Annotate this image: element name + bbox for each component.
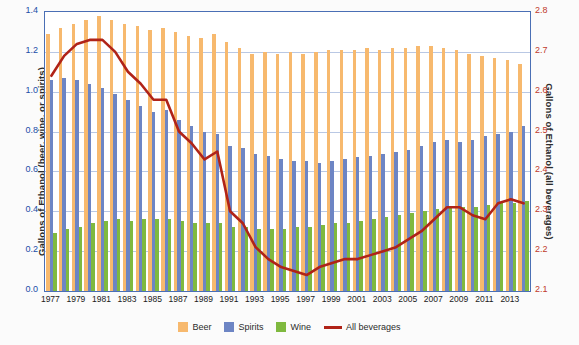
all-beverages-line	[45, 12, 532, 293]
legend-item[interactable]: Wine	[276, 322, 311, 332]
y-axis-right-tick-label: 2.4	[535, 164, 571, 174]
legend-label: Spirits	[238, 322, 263, 332]
legend-item[interactable]: All beverages	[324, 322, 401, 332]
y-axis-right-tick-label: 2.6	[535, 85, 571, 95]
y-axis-left-tick-label: 0.4	[2, 204, 38, 214]
y-axis-left-tick-label: 0.2	[2, 244, 38, 254]
y-axis-right-tick-label: 2.7	[535, 45, 571, 55]
y-axis-left-tick-label: 0.8	[2, 125, 38, 135]
y-axis-right-tick-label: 2.2	[535, 244, 571, 254]
legend-item[interactable]: Beer	[178, 322, 211, 332]
legend-label: Beer	[192, 322, 211, 332]
chart-container: Gallons of Ethanol (beer, wine, or spiri…	[0, 0, 579, 345]
legend-item[interactable]: Spirits	[224, 322, 263, 332]
legend-swatch-icon	[276, 322, 286, 332]
x-axis-tick-label: 2013	[490, 294, 530, 304]
legend-swatch-icon	[178, 322, 188, 332]
y-axis-left-tick-label: 0.0	[2, 284, 38, 294]
y-axis-right-tick-label: 2.1	[535, 284, 571, 294]
y-axis-left-tick-label: 0.6	[2, 164, 38, 174]
y-axis-left-tick-label: 1.0	[2, 85, 38, 95]
y-axis-right-tick-label: 2.8	[535, 5, 571, 15]
legend-line-icon	[324, 326, 342, 329]
legend-label: All beverages	[346, 322, 401, 332]
y-axis-right-tick-label: 2.3	[535, 204, 571, 214]
legend-swatch-icon	[224, 322, 234, 332]
chart-legend: BeerSpiritsWineAll beverages	[0, 322, 579, 332]
plot-area	[44, 11, 531, 292]
legend-label: Wine	[290, 322, 311, 332]
y-axis-right-tick-label: 2.5	[535, 125, 571, 135]
y-axis-left-tick-label: 1.2	[2, 45, 38, 55]
y-axis-left-tick-label: 1.4	[2, 5, 38, 15]
